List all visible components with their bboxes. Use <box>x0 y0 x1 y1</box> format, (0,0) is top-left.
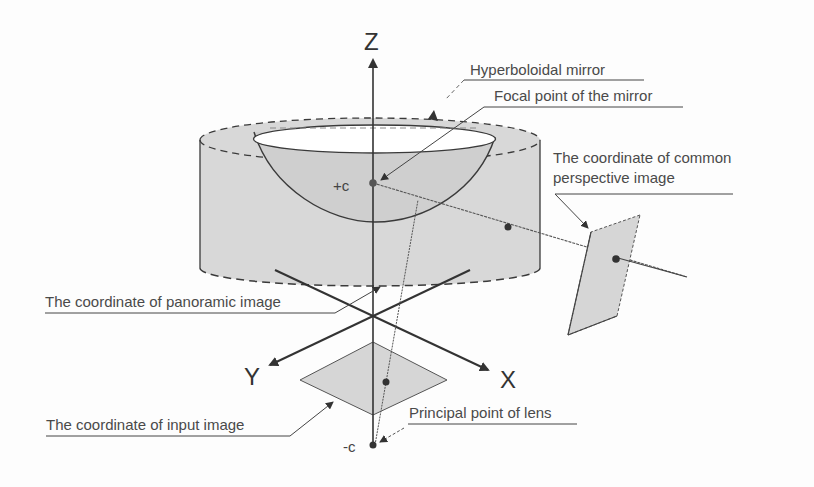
perspective-point <box>612 255 620 263</box>
svg-text:The coordinate of common: The coordinate of common <box>553 149 731 166</box>
svg-text:Focal point of the mirror: Focal point of the mirror <box>494 87 652 104</box>
mirror-ray-point <box>505 224 512 231</box>
principal-point-callout: Principal point of lens <box>380 404 577 442</box>
camera-geometry-diagram: Z Y X +c -c Hyperboloidal mirror Focal p… <box>0 0 814 487</box>
upper-focus-label: +c <box>333 177 350 194</box>
image-point <box>383 379 390 386</box>
upper-focus-point <box>369 179 377 187</box>
perspective-image-plane <box>568 215 640 335</box>
z-axis-label: Z <box>364 28 379 55</box>
svg-text:The coordinate of panoramic im: The coordinate of panoramic image <box>45 293 281 310</box>
svg-text:Principal point of lens: Principal point of lens <box>409 404 552 421</box>
lower-focus-point <box>370 442 377 449</box>
input-image-callout: The coordinate of input image <box>46 402 333 436</box>
x-axis-label: X <box>500 366 516 393</box>
svg-text:Hyperboloidal mirror: Hyperboloidal mirror <box>470 61 605 78</box>
diagram-canvas: Z Y X +c -c Hyperboloidal mirror Focal p… <box>0 0 814 487</box>
lower-focus-label: -c <box>343 438 356 455</box>
perspective-image-callout: The coordinate of common perspective ima… <box>553 149 733 228</box>
panoramic-image-callout: The coordinate of panoramic image <box>45 287 380 313</box>
svg-text:The coordinate of input image: The coordinate of input image <box>46 416 244 433</box>
y-axis-label: Y <box>244 363 260 390</box>
svg-text:perspective image: perspective image <box>553 169 675 186</box>
